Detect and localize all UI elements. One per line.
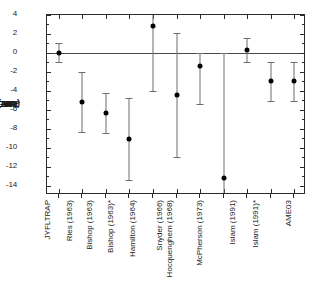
error-bar [223,53,224,193]
y-axis-major-tick [47,148,51,149]
data-point [80,100,85,105]
y-axis-major-tick [47,15,51,16]
error-bar-cap [197,104,204,105]
x-axis-tick [106,189,107,193]
x-axis-outer-tick [128,194,129,198]
error-bar-cap [102,93,109,94]
y-axis-minor-tick [47,24,49,25]
y-axis-minor-tick [47,62,49,63]
error-bar [200,53,201,104]
y-axis-major-tick [300,186,304,187]
y-axis-major-tick [47,186,51,187]
y-axis-major-tick [300,91,304,92]
x-axis-tick [247,189,248,193]
error-bar-cap [149,91,156,92]
y-axis-major-tick [300,53,304,54]
y-axis-tick-label: -4 [10,86,17,94]
x-axis-outer-tick [246,194,247,198]
y-axis-major-tick [47,110,51,111]
y-axis-tick-label: -10 [6,143,17,151]
y-axis-major-tick [300,167,304,168]
y-axis-minor-tick [47,81,49,82]
x-axis-tick [271,189,272,193]
x-axis-category-text: JYFLTRAP [43,200,52,239]
data-point [150,24,155,29]
x-axis-category-text: McPherson (1973) [194,200,203,266]
y-axis-major-tick [300,129,304,130]
data-point [268,79,273,84]
y-axis-minor-tick [47,100,49,101]
x-axis-tick [224,15,225,19]
y-axis-tick-label: 2 [13,29,17,37]
plot-area [46,14,305,194]
x-axis-tick [59,189,60,193]
x-axis-tick [177,189,178,193]
x-axis-category-text: Ries (1963) [65,200,74,241]
x-axis-outer-tick [58,194,59,198]
x-axis-category-text: AME03 [285,200,294,226]
y-axis-major-tick [300,110,304,111]
error-bar-cap [220,53,227,54]
error-bar-cap [173,33,180,34]
y-axis-tick-label: -8 [10,124,17,132]
x-axis-category-text: Hocquenghem (1968) [165,200,174,277]
x-axis-category-label: McPherson (1973) [217,200,229,292]
error-bar-cap [244,62,251,63]
y-axis-major-tick [47,72,51,73]
x-axis-outer-tick [105,194,106,198]
y-axis-tick-label: -2 [10,67,17,75]
x-axis-tick [82,15,83,19]
y-axis-major-tick [300,34,304,35]
x-axis-category-text: Islam (1991) [228,200,237,244]
error-bar-cap [197,53,204,54]
y-axis-major-tick [47,53,51,54]
error-bar-cap [291,62,298,63]
y-axis-tick-label: 4 [13,10,17,18]
x-axis-outer-tick [223,194,224,198]
x-axis-category-label: Islam (1991)* [264,200,276,292]
error-bar-cap [126,180,133,181]
x-axis-outer-tick [293,194,294,198]
plot-clip [47,15,304,193]
y-axis-minor-tick [302,24,304,25]
x-axis-category-text: Islam (1991)* [250,200,259,248]
error-bar-cap [244,38,251,39]
x-axis-outer-tick [199,194,200,198]
y-axis-tick-label: -12 [6,162,17,170]
y-axis-minor-tick [47,43,49,44]
x-axis-tick [200,15,201,19]
error-bar-cap [291,101,298,102]
x-axis-outer-tick [176,194,177,198]
y-axis-minor-tick [47,138,49,139]
y-axis-tick-label: 0 [13,48,17,56]
x-axis-tick [59,15,60,19]
y-axis-tick-label: -14 [6,181,17,189]
x-axis-outer-tick [270,194,271,198]
y-axis-major-tick [300,72,304,73]
data-point [127,137,132,142]
x-axis-tick [129,189,130,193]
y-axis-minor-tick [302,138,304,139]
x-axis-outer-tick [81,194,82,198]
error-bar-cap [79,132,86,133]
chart-figure: MEJYFL - MELIT (keV) 420-2-4-6-8-10-12-1… [0,0,326,295]
data-point [245,48,250,53]
x-axis-outer-tick [152,194,153,198]
x-axis-tick [200,189,201,193]
x-axis-tick [106,15,107,19]
x-axis-tick [129,15,130,19]
error-bar-cap [267,62,274,63]
y-axis-minor-tick [47,176,49,177]
x-axis-category-text: Hamilton (1964) [128,200,137,257]
y-axis-major-tick [300,148,304,149]
y-axis-minor-tick [302,100,304,101]
error-bar-cap [102,133,109,134]
y-axis-minor-tick [302,119,304,120]
y-axis-minor-tick [47,157,49,158]
y-axis-major-tick [47,91,51,92]
x-axis-category-label: JYFLTRAP [52,200,64,292]
x-axis-tick [153,189,154,193]
y-axis-minor-tick [302,81,304,82]
error-bar-cap [126,98,133,99]
data-point [292,79,297,84]
